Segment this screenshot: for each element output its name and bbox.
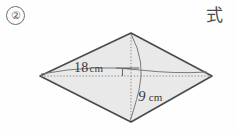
vertical-diagonal-unit: cm — [149, 91, 163, 103]
vertical-diagonal-value: 9 — [138, 88, 146, 104]
rhombus-shape — [40, 33, 212, 122]
horizontal-diagonal-unit: cm — [89, 62, 103, 74]
horizontal-diagonal-value: 18 — [74, 60, 88, 75]
vertical-diagonal-label: 9cm — [138, 88, 163, 105]
horizontal-diagonal-label: 18cm — [74, 60, 103, 76]
rhombus-figure — [0, 0, 236, 135]
rhombus-diagram — [0, 0, 236, 135]
worksheet-page: ② 式 18cm 9cm — [0, 0, 236, 135]
